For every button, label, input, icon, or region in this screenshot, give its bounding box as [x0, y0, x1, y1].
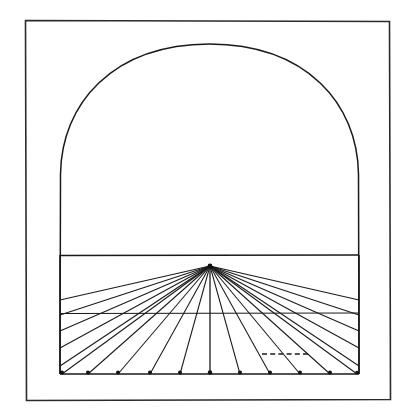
station-dot-7 — [238, 371, 242, 375]
perspective-diagram-canvas: One-point perspective grid inside an arc… — [0, 0, 416, 416]
station-dot-1 — [60, 371, 64, 375]
station-dot-4 — [148, 371, 152, 375]
perspective-diagram-svg: One-point perspective grid inside an arc… — [0, 0, 416, 416]
station-dot-6 — [208, 370, 212, 374]
paper-background — [0, 0, 416, 416]
station-dot-3 — [116, 371, 120, 375]
station-dot-9 — [298, 371, 302, 375]
vanishing-point-marker — [208, 264, 213, 269]
station-dot-5 — [178, 371, 182, 375]
station-dot-2 — [86, 371, 90, 375]
station-dot-8 — [268, 371, 272, 375]
horizon-line — [60, 255, 359, 256]
station-dot-11 — [355, 371, 359, 375]
station-dot-10 — [328, 371, 332, 375]
